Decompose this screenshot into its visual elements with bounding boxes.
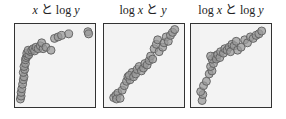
data-point	[47, 46, 55, 54]
data-point	[202, 77, 210, 85]
title-text: log	[240, 3, 258, 17]
scatter-plot-3	[190, 23, 272, 108]
title-text: と	[38, 3, 56, 17]
scatter-plot-2	[103, 23, 185, 108]
data-point	[149, 55, 157, 63]
scatter-points	[191, 24, 270, 106]
variable-label: y	[74, 3, 79, 17]
title-text: と	[222, 3, 240, 17]
data-point	[171, 26, 179, 34]
scatter-plot-1	[14, 23, 96, 108]
data-point	[85, 30, 93, 38]
data-point	[116, 94, 124, 102]
scatter-points	[15, 24, 94, 106]
variable-label: y	[258, 3, 263, 17]
panel-title-3: log x と log y	[198, 3, 263, 17]
scatter-points	[104, 24, 183, 106]
title-text: log	[198, 3, 216, 17]
data-point	[58, 31, 66, 39]
title-text: と	[143, 3, 161, 17]
title-text: log	[56, 3, 74, 17]
data-point	[258, 27, 266, 35]
title-text: log	[120, 3, 138, 17]
panel-title-2: log x と y	[120, 3, 167, 17]
data-point	[65, 30, 73, 38]
panel-title-1: x と log y	[33, 3, 80, 17]
variable-label: y	[161, 3, 166, 17]
